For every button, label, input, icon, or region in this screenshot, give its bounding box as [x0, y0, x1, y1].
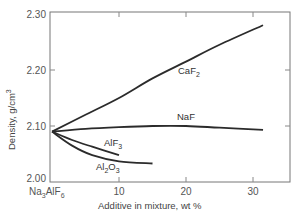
series-line-caf2: [52, 25, 263, 131]
y-axis-title: Density, g/cm3: [5, 89, 17, 150]
y-tick-label: 2.00: [27, 173, 47, 184]
series-line-naf: [52, 126, 263, 132]
x-tick-label: 10: [113, 186, 125, 197]
density-chart: 1020302.002.102.202.30 Density, g/cm3 Ad…: [0, 0, 299, 218]
x-origin-label: Na3AlF6: [29, 186, 65, 199]
label-caf2: CaF2: [178, 65, 200, 78]
label-naf: NaF: [177, 111, 195, 122]
label-al2o3: Al2O3: [96, 161, 120, 174]
y-tick-label: 2.10: [27, 121, 47, 132]
series-lines: [52, 25, 263, 163]
x-tick-label: 30: [247, 186, 259, 197]
y-tick-label: 2.20: [27, 65, 47, 76]
axis-tick-labels: 1020302.002.102.202.30: [27, 9, 259, 198]
label-alf3: AlF3: [104, 137, 122, 150]
y-tick-label: 2.30: [27, 9, 47, 20]
series-line-al2o3: [52, 132, 153, 164]
x-axis-title: Additive in mixture, wt %: [98, 200, 202, 211]
plot-frame: [50, 12, 290, 182]
x-tick-label: 20: [180, 186, 192, 197]
axis-ticks: [50, 12, 290, 182]
